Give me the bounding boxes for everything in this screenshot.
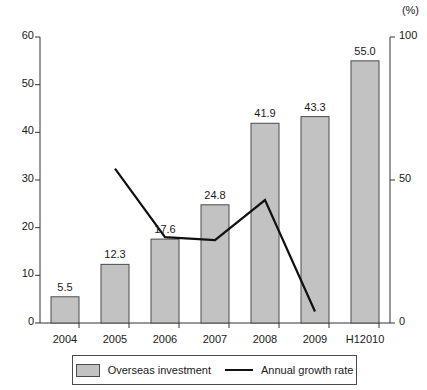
x-axis-category-label: 2004 [40,333,90,345]
left-axis-tick-label: 30 [8,172,34,184]
right-axis-tick-label: 100 [399,29,417,41]
bar-value-label: 55.0 [343,45,387,57]
chart-container: (%) 0102030405060 050100 200420052006200… [0,0,427,390]
chart-legend: Overseas investment Annual growth rate [72,355,357,385]
bar [351,61,379,323]
bar-value-label: 5.5 [43,281,87,293]
bar-value-label: 12.3 [93,248,137,260]
right-axis-tick-label: 50 [399,172,411,184]
legend-item-annual-growth-rate: Annual growth rate [225,364,353,376]
x-axis-category-label: H12010 [340,333,390,345]
left-axis-tick-label: 50 [8,77,34,89]
left-axis-tick-label: 10 [8,267,34,279]
legend-label-overseas-investment: Overseas investment [108,364,211,376]
x-axis-category-label: 2007 [190,333,240,345]
bar [51,297,79,323]
x-axis-category-label: 2005 [90,333,140,345]
bar [201,205,229,323]
left-axis-tick-label: 20 [8,220,34,232]
bar-value-label: 41.9 [243,107,287,119]
bar-value-label: 43.3 [293,101,337,113]
x-axis-category-label: 2008 [240,333,290,345]
legend-line-icon [225,369,253,371]
bar-value-label: 17.6 [143,223,187,235]
x-axis-category-label: 2006 [140,333,190,345]
left-axis-tick-label: 0 [8,315,34,327]
legend-label-annual-growth-rate: Annual growth rate [261,364,353,376]
x-axis-category-label: 2009 [290,333,340,345]
bar-value-label: 24.8 [193,189,237,201]
bar [151,239,179,323]
right-axis-tick-label: 0 [399,315,405,327]
bar [101,264,129,323]
legend-swatch-icon [76,364,100,377]
left-axis-tick-label: 40 [8,124,34,136]
left-axis-tick-label: 60 [8,29,34,41]
legend-item-overseas-investment: Overseas investment [76,364,211,377]
